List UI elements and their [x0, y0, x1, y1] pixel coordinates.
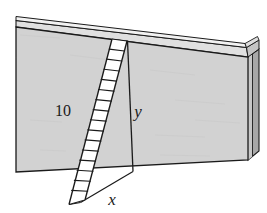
figure-canvas: 10 y x — [0, 0, 267, 213]
wall-group — [16, 17, 259, 177]
label-ladder-length: 10 — [55, 102, 71, 119]
label-wall-height: y — [132, 102, 142, 121]
ladder-wall-figure: 10 y x — [0, 0, 267, 213]
wall-side-inner-face — [248, 54, 253, 160]
label-ground-distance: x — [107, 190, 116, 209]
